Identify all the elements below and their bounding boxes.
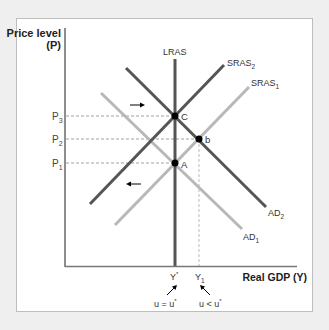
ad1-label: AD1	[243, 232, 260, 244]
sras2-label: SRAS2	[227, 58, 256, 70]
y-axis-label-line1: Price level	[7, 27, 61, 39]
sras1-label: SRAS1	[251, 78, 280, 90]
p3-label: P3	[52, 111, 63, 124]
left-shift-arrow-icon	[126, 182, 141, 187]
lras-label: LRAS	[163, 47, 187, 57]
u-less-natural-label: u < u*	[199, 298, 222, 309]
p1-label: P1	[52, 158, 63, 171]
p2-label: P2	[52, 134, 63, 147]
y1-pointer-arrow-icon	[200, 285, 210, 295]
point-b-marker	[196, 136, 203, 143]
u-equal-natural-label: u = u*	[154, 298, 177, 309]
y1-label: Y1	[195, 272, 205, 284]
ad2-label: AD2	[268, 208, 285, 220]
point-a-label: A	[181, 159, 188, 170]
ystar-label: Y*	[170, 271, 179, 282]
point-c-marker	[172, 113, 179, 120]
point-b-label: b	[205, 134, 210, 145]
point-a-marker	[172, 160, 179, 167]
y-axis-label-line2: (P)	[46, 39, 61, 51]
as-ad-diagram: Price level (P) Real GDP (Y) P3 P2 P1 LR…	[0, 0, 329, 330]
point-c-label: C	[181, 111, 188, 122]
right-shift-arrow-icon	[130, 103, 145, 108]
x-axis-label: Real GDP (Y)	[242, 271, 307, 283]
ystar-pointer-arrow-icon	[167, 285, 177, 295]
